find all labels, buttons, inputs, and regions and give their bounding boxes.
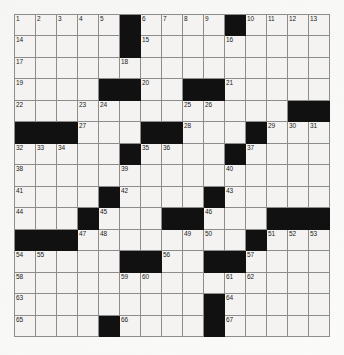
grid-letter-cell[interactable]: [246, 58, 267, 79]
grid-letter-cell[interactable]: [162, 187, 183, 208]
grid-letter-cell[interactable]: [162, 58, 183, 79]
grid-letter-cell[interactable]: 22: [15, 101, 36, 122]
grid-letter-cell[interactable]: [162, 36, 183, 57]
grid-letter-cell[interactable]: 29: [267, 122, 288, 143]
grid-letter-cell[interactable]: 16: [225, 36, 246, 57]
grid-letter-cell[interactable]: [204, 36, 225, 57]
grid-letter-cell[interactable]: [288, 316, 309, 337]
grid-letter-cell[interactable]: 18: [120, 58, 141, 79]
grid-letter-cell[interactable]: [267, 36, 288, 57]
grid-letter-cell[interactable]: [99, 251, 120, 272]
grid-letter-cell[interactable]: 64: [225, 294, 246, 315]
grid-letter-cell[interactable]: 54: [15, 251, 36, 272]
grid-letter-cell[interactable]: 26: [204, 101, 225, 122]
grid-letter-cell[interactable]: [225, 58, 246, 79]
grid-letter-cell[interactable]: 7: [162, 15, 183, 36]
grid-letter-cell[interactable]: [225, 101, 246, 122]
grid-letter-cell[interactable]: [141, 208, 162, 229]
grid-letter-cell[interactable]: [309, 273, 330, 294]
grid-letter-cell[interactable]: [99, 144, 120, 165]
grid-letter-cell[interactable]: 15: [141, 36, 162, 57]
grid-letter-cell[interactable]: 2: [36, 15, 57, 36]
grid-letter-cell[interactable]: 12: [288, 15, 309, 36]
grid-letter-cell[interactable]: 27: [78, 122, 99, 143]
grid-letter-cell[interactable]: [78, 79, 99, 100]
grid-letter-cell[interactable]: [78, 187, 99, 208]
grid-letter-cell[interactable]: [141, 101, 162, 122]
grid-letter-cell[interactable]: [36, 316, 57, 337]
grid-letter-cell[interactable]: [99, 58, 120, 79]
grid-letter-cell[interactable]: 62: [246, 273, 267, 294]
grid-letter-cell[interactable]: 36: [162, 144, 183, 165]
grid-letter-cell[interactable]: 41: [15, 187, 36, 208]
grid-letter-cell[interactable]: [267, 273, 288, 294]
grid-letter-cell[interactable]: [120, 208, 141, 229]
grid-letter-cell[interactable]: [99, 36, 120, 57]
grid-letter-cell[interactable]: [246, 36, 267, 57]
grid-letter-cell[interactable]: [57, 58, 78, 79]
grid-letter-cell[interactable]: [78, 316, 99, 337]
grid-letter-cell[interactable]: [36, 36, 57, 57]
grid-letter-cell[interactable]: [246, 294, 267, 315]
grid-letter-cell[interactable]: 47: [78, 230, 99, 251]
grid-letter-cell[interactable]: [225, 208, 246, 229]
grid-letter-cell[interactable]: [36, 187, 57, 208]
grid-letter-cell[interactable]: 56: [162, 251, 183, 272]
crossword-grid[interactable]: 1234567891011121314151617181920212223242…: [14, 14, 330, 337]
grid-letter-cell[interactable]: 21: [225, 79, 246, 100]
grid-letter-cell[interactable]: [183, 187, 204, 208]
grid-letter-cell[interactable]: [57, 79, 78, 100]
grid-letter-cell[interactable]: [267, 79, 288, 100]
grid-letter-cell[interactable]: 23: [78, 101, 99, 122]
grid-letter-cell[interactable]: [267, 187, 288, 208]
grid-letter-cell[interactable]: [162, 230, 183, 251]
grid-letter-cell[interactable]: 30: [288, 122, 309, 143]
grid-letter-cell[interactable]: [36, 79, 57, 100]
grid-letter-cell[interactable]: [99, 165, 120, 186]
grid-letter-cell[interactable]: 33: [36, 144, 57, 165]
grid-letter-cell[interactable]: 61: [225, 273, 246, 294]
grid-letter-cell[interactable]: [162, 101, 183, 122]
grid-letter-cell[interactable]: [309, 294, 330, 315]
grid-letter-cell[interactable]: [78, 273, 99, 294]
grid-letter-cell[interactable]: 8: [183, 15, 204, 36]
grid-letter-cell[interactable]: 20: [141, 79, 162, 100]
grid-letter-cell[interactable]: 1: [15, 15, 36, 36]
grid-letter-cell[interactable]: 48: [99, 230, 120, 251]
grid-letter-cell[interactable]: [141, 230, 162, 251]
grid-letter-cell[interactable]: [57, 251, 78, 272]
grid-letter-cell[interactable]: 31: [309, 122, 330, 143]
grid-letter-cell[interactable]: 50: [204, 230, 225, 251]
grid-letter-cell[interactable]: 10: [246, 15, 267, 36]
grid-letter-cell[interactable]: [141, 58, 162, 79]
grid-letter-cell[interactable]: 58: [15, 273, 36, 294]
grid-letter-cell[interactable]: [141, 165, 162, 186]
grid-letter-cell[interactable]: [267, 58, 288, 79]
grid-letter-cell[interactable]: [36, 294, 57, 315]
grid-letter-cell[interactable]: [36, 58, 57, 79]
grid-letter-cell[interactable]: [204, 122, 225, 143]
grid-letter-cell[interactable]: [288, 251, 309, 272]
grid-letter-cell[interactable]: 38: [15, 165, 36, 186]
grid-letter-cell[interactable]: [162, 294, 183, 315]
grid-letter-cell[interactable]: 59: [120, 273, 141, 294]
grid-letter-cell[interactable]: [309, 316, 330, 337]
grid-letter-cell[interactable]: 65: [15, 316, 36, 337]
grid-letter-cell[interactable]: [162, 79, 183, 100]
grid-letter-cell[interactable]: [78, 58, 99, 79]
grid-letter-cell[interactable]: [204, 58, 225, 79]
grid-letter-cell[interactable]: [57, 165, 78, 186]
grid-letter-cell[interactable]: [57, 294, 78, 315]
grid-letter-cell[interactable]: [99, 273, 120, 294]
grid-letter-cell[interactable]: [288, 294, 309, 315]
grid-letter-cell[interactable]: 63: [15, 294, 36, 315]
grid-letter-cell[interactable]: [57, 273, 78, 294]
grid-letter-cell[interactable]: [309, 58, 330, 79]
grid-letter-cell[interactable]: 19: [15, 79, 36, 100]
grid-letter-cell[interactable]: [36, 273, 57, 294]
grid-letter-cell[interactable]: [246, 79, 267, 100]
grid-letter-cell[interactable]: [309, 36, 330, 57]
grid-letter-cell[interactable]: [246, 101, 267, 122]
grid-letter-cell[interactable]: [183, 251, 204, 272]
grid-letter-cell[interactable]: [288, 79, 309, 100]
